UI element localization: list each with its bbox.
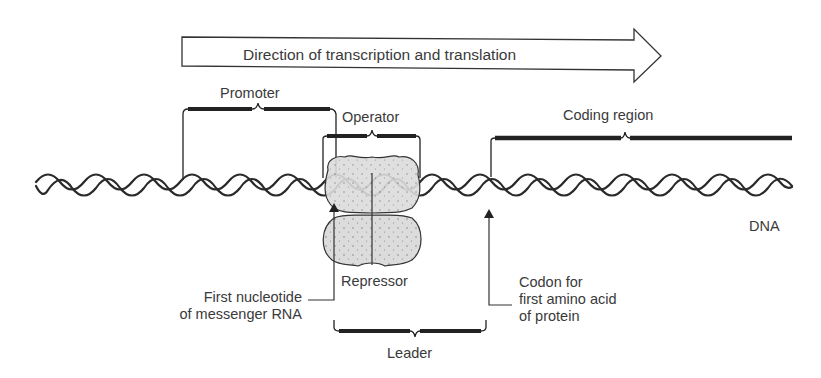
repressor-label: Repressor [341,273,408,290]
promoter-bracket [183,103,336,180]
first-nucleotide-pointer [308,203,339,300]
dna-label: DNA [749,218,780,235]
codon-pointer [484,209,512,305]
first-nucleotide-line2: of messenger RNA [150,306,302,323]
codon-label: Codon for first amino acid of protein [519,274,617,325]
coding-region-bracket [491,132,792,177]
first-nucleotide-line1: First nucleotide [150,289,302,306]
direction-arrow-label: Direction of transcription and translati… [243,46,516,63]
operator-label: Operator [342,109,399,126]
leader-label: Leader [387,345,432,362]
first-nucleotide-label: First nucleotide of messenger RNA [150,289,302,323]
codon-line3: of protein [519,308,617,325]
codon-line2: first amino acid [519,291,617,308]
codon-line1: Codon for [519,274,617,291]
promoter-label: Promoter [220,85,280,102]
coding-region-label: Coding region [563,107,653,124]
leader-bracket [334,320,486,337]
